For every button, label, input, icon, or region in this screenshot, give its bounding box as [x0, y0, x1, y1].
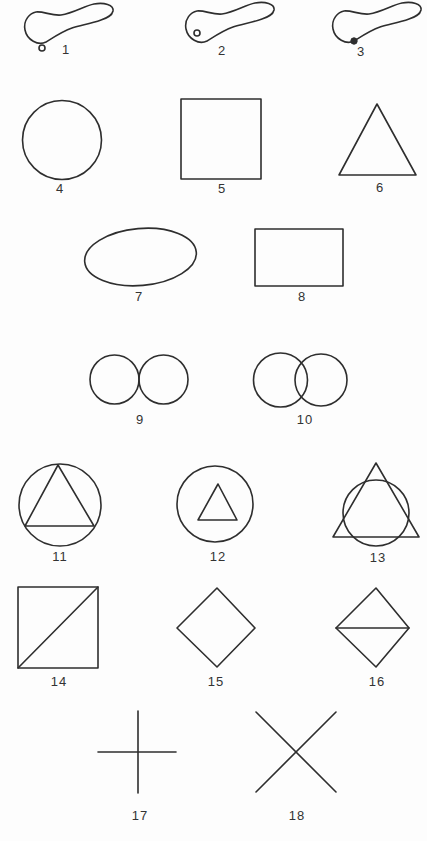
- shape-5-label: 5: [218, 181, 226, 196]
- shape-3-blob-dot-on-boundary: [333, 2, 421, 44]
- shapes-figure-page: 1 2 3 4 5 6 7 8: [0, 0, 427, 841]
- shape-15-diamond: [177, 588, 255, 667]
- shape-18-x-cross: [256, 712, 336, 792]
- shape-4-label: 4: [56, 181, 64, 196]
- shape-6-triangle: [339, 104, 416, 175]
- diamond-outline: [177, 588, 255, 667]
- blob-outline: [333, 2, 421, 42]
- shape-4-circle: [23, 101, 102, 180]
- shape-10-two-overlapping-circles: [254, 353, 348, 407]
- ellipse-outline: [82, 224, 199, 291]
- shape-2-blob-dot-inside: [186, 2, 274, 42]
- shape-13-triangle-overlapping-circle: [333, 463, 419, 546]
- shape-15-label: 15: [208, 674, 224, 689]
- shape-17-plus-cross: [98, 711, 176, 793]
- shape-8-label: 8: [298, 289, 306, 304]
- shape-18-label: 18: [289, 808, 305, 823]
- small-circle-outside-icon: [39, 45, 45, 51]
- inscribed-triangle-outline: [25, 465, 94, 526]
- shapes-figure-canvas: 1 2 3 4 5 6 7 8: [0, 0, 427, 841]
- square-outline: [181, 99, 261, 179]
- shape-7-ellipse: [82, 224, 199, 291]
- shape-12-label: 12: [210, 549, 226, 564]
- inner-triangle-outline: [198, 484, 237, 520]
- rectangle-outline: [255, 229, 343, 286]
- shape-8-rectangle: [255, 229, 343, 286]
- shape-16-diamond-with-horizontal-line: [336, 588, 409, 667]
- shape-9-label: 9: [136, 412, 144, 427]
- shape-2-label: 2: [218, 43, 226, 58]
- circle-outline: [177, 466, 253, 542]
- shape-6-label: 6: [376, 180, 384, 195]
- circle-outline: [343, 480, 409, 546]
- circle-outline: [19, 464, 101, 546]
- small-circle-inside-icon: [194, 30, 200, 36]
- shape-5-square: [181, 99, 261, 179]
- shape-14-square-with-diagonal: [18, 587, 98, 668]
- triangle-outline: [339, 104, 416, 175]
- shape-11-label: 11: [52, 549, 68, 564]
- shape-16-label: 16: [369, 674, 385, 689]
- shape-13-label: 13: [370, 550, 386, 565]
- shape-7-label: 7: [135, 289, 143, 304]
- shape-1-label: 1: [62, 42, 70, 57]
- shape-9-two-tangent-circles: [90, 355, 188, 404]
- right-circle-outline: [295, 354, 347, 406]
- shape-14-label: 14: [51, 674, 67, 689]
- shape-10-label: 10: [297, 412, 313, 427]
- shape-17-label: 17: [132, 808, 148, 823]
- circle-outline: [23, 101, 102, 180]
- left-circle-outline: [90, 355, 139, 404]
- left-circle-outline: [254, 353, 308, 407]
- shape-11-triangle-inscribed-in-circle: [19, 464, 101, 546]
- blob-outline: [25, 3, 113, 43]
- diagonal-line: [18, 587, 98, 668]
- right-circle-outline: [139, 355, 188, 404]
- shape-12-small-triangle-inside-circle: [177, 466, 253, 542]
- shape-3-label: 3: [357, 44, 365, 59]
